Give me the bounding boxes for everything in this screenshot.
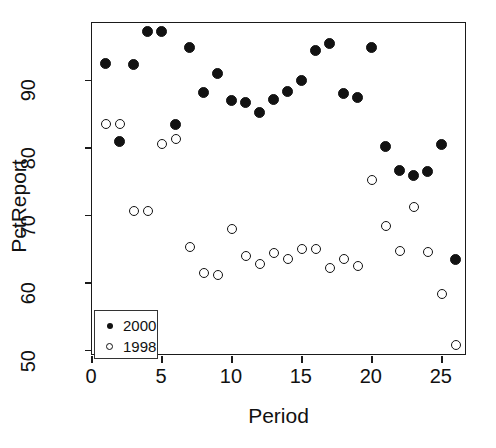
data-point-1998 — [451, 340, 461, 350]
data-point-2000 — [100, 58, 111, 69]
legend-marker-filled-circle-icon — [103, 323, 116, 329]
data-point-2000 — [436, 139, 447, 150]
data-point-1998 — [423, 247, 433, 257]
data-point-1998 — [115, 119, 125, 129]
data-point-1998 — [101, 119, 111, 129]
data-point-1998 — [353, 261, 363, 271]
plot-frame — [91, 22, 466, 355]
x-tick-mark — [441, 356, 443, 363]
y-tick-mark — [85, 282, 92, 284]
y-tick-label: 90 — [17, 79, 40, 101]
data-point-2000 — [240, 97, 251, 108]
data-point-1998 — [297, 244, 307, 254]
data-point-2000 — [282, 86, 293, 97]
data-point-1998 — [325, 263, 335, 273]
data-point-2000 — [184, 42, 195, 53]
y-tick-label: 60 — [17, 282, 40, 304]
legend-label: 1998 — [123, 339, 156, 354]
data-point-1998 — [437, 289, 447, 299]
y-tick-label: 70 — [17, 215, 40, 237]
data-point-1998 — [311, 244, 321, 254]
x-tick-mark — [161, 356, 163, 363]
data-point-2000 — [198, 87, 209, 98]
y-tick-label: 50 — [17, 350, 40, 372]
data-point-1998 — [171, 134, 181, 144]
legend-marker-open-circle-icon — [103, 343, 116, 350]
data-point-2000 — [394, 165, 405, 176]
x-tick-mark — [91, 356, 93, 363]
data-point-2000 — [352, 92, 363, 103]
data-point-1998 — [283, 254, 293, 264]
data-point-2000 — [142, 26, 153, 37]
legend: 2000 1998 — [94, 310, 158, 359]
x-tick-label: 5 — [155, 365, 166, 388]
data-point-2000 — [254, 107, 265, 118]
data-point-2000 — [422, 166, 433, 177]
x-tick-label: 0 — [85, 365, 96, 388]
data-point-1998 — [241, 251, 251, 261]
data-point-2000 — [324, 38, 335, 49]
data-point-1998 — [185, 242, 195, 252]
data-point-1998 — [143, 206, 153, 216]
data-point-1998 — [129, 206, 139, 216]
y-axis: 5060708090 — [2, 22, 42, 355]
x-tick-label: 10 — [220, 365, 242, 388]
x-tick-mark — [231, 356, 233, 363]
x-tick-label: 15 — [290, 365, 312, 388]
data-point-2000 — [450, 254, 461, 265]
x-tick-mark — [371, 356, 373, 363]
data-point-2000 — [114, 136, 125, 147]
legend-item: 1998 — [95, 336, 157, 357]
data-point-2000 — [380, 141, 391, 152]
y-tick-mark — [85, 350, 92, 352]
data-point-2000 — [338, 88, 349, 99]
data-point-1998 — [381, 221, 391, 231]
scatter-plot-figure: PctReport 5060708090 0510152025 Period 2… — [0, 0, 496, 448]
data-point-1998 — [367, 175, 377, 185]
data-point-2000 — [408, 170, 419, 181]
y-tick-mark — [85, 80, 92, 82]
y-tick-mark — [85, 215, 92, 217]
data-point-1998 — [227, 224, 237, 234]
data-point-1998 — [255, 259, 265, 269]
data-point-1998 — [199, 268, 209, 278]
legend-item: 2000 — [95, 315, 157, 336]
data-point-2000 — [212, 68, 223, 79]
data-point-1998 — [395, 246, 405, 256]
data-point-1998 — [213, 270, 223, 280]
data-point-1998 — [157, 139, 167, 149]
data-point-2000 — [128, 59, 139, 70]
data-point-2000 — [170, 119, 181, 130]
data-point-2000 — [296, 75, 307, 86]
y-tick-label: 80 — [17, 147, 40, 169]
data-point-2000 — [156, 26, 167, 37]
data-point-1998 — [339, 254, 349, 264]
x-tick-label: 20 — [360, 365, 382, 388]
data-point-2000 — [268, 94, 279, 105]
plot-area — [92, 23, 465, 354]
y-tick-mark — [85, 147, 92, 149]
data-point-2000 — [226, 95, 237, 106]
x-axis-title: Period — [91, 404, 466, 428]
x-axis: 0510152025 — [91, 356, 466, 390]
data-point-2000 — [310, 45, 321, 56]
x-tick-label: 25 — [430, 365, 452, 388]
legend-label: 2000 — [123, 318, 156, 333]
data-point-2000 — [366, 42, 377, 53]
x-tick-mark — [301, 356, 303, 363]
data-point-1998 — [269, 248, 279, 258]
data-point-1998 — [409, 202, 419, 212]
